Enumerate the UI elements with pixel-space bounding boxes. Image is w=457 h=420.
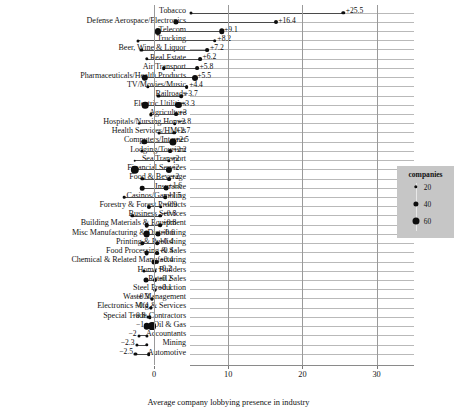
category-label: Automotive xyxy=(1,347,186,358)
connector-line xyxy=(158,96,181,97)
legend-title: companies xyxy=(397,170,454,179)
connector-line xyxy=(135,160,169,161)
axis-gridline xyxy=(377,5,378,365)
connector-line xyxy=(135,169,169,170)
data-point-end[interactable] xyxy=(147,352,151,356)
connector-line xyxy=(124,197,165,198)
connector-line xyxy=(142,151,170,152)
legend-label: 20 xyxy=(424,183,431,192)
legend-marker xyxy=(413,201,418,206)
data-point-end[interactable] xyxy=(274,20,278,24)
axis-tick xyxy=(377,366,378,369)
axis-gridline xyxy=(154,5,155,365)
connector-line xyxy=(145,105,178,106)
x-axis-title: Average company lobbying presence in ind… xyxy=(0,398,457,407)
connector-line xyxy=(158,31,222,32)
axis-tick-label: 30 xyxy=(372,370,380,379)
connector-line xyxy=(191,13,343,14)
connector-line xyxy=(132,216,159,217)
value-label: +25.5 xyxy=(346,5,364,16)
connector-line xyxy=(142,179,169,180)
legend: companies 204060 xyxy=(397,166,454,238)
connector-line xyxy=(151,114,176,115)
connector-line xyxy=(141,50,207,51)
value-label: +16.4 xyxy=(278,15,296,26)
axis-tick xyxy=(228,366,229,369)
data-point-start[interactable] xyxy=(190,11,193,14)
connector-line xyxy=(145,77,195,78)
axis-tick-label: 20 xyxy=(298,370,306,379)
connector-line xyxy=(138,40,215,41)
connector-line xyxy=(139,123,175,124)
axis-gridline xyxy=(302,5,303,365)
connector-line xyxy=(164,68,197,69)
legend-marker xyxy=(414,185,417,188)
value-label: −2.5 xyxy=(119,346,133,357)
data-point-end[interactable] xyxy=(342,11,345,14)
legend-label: 60 xyxy=(424,217,431,226)
axis-tick xyxy=(302,366,303,369)
lobbying-presence-chart: Tobacco+25.5Defense Aerospace/Electronic… xyxy=(0,0,457,420)
axis-gridline xyxy=(228,5,229,365)
axis-tick-label: 10 xyxy=(224,370,232,379)
axis-tick xyxy=(154,366,155,369)
legend-label: 40 xyxy=(424,200,431,209)
connector-line xyxy=(176,22,276,23)
legend-marker xyxy=(412,218,419,225)
axis-tick-label: 0 xyxy=(152,370,156,379)
